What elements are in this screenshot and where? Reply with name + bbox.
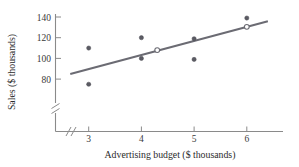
- trend-line: [70, 21, 268, 74]
- data-point: [139, 56, 143, 60]
- data-point-open: [244, 24, 249, 29]
- x-tick-label-6: 6: [244, 134, 249, 144]
- y-axis-title: Sales ($ thousands): [6, 34, 18, 110]
- data-point: [87, 46, 91, 50]
- y-axis-ticks: [56, 17, 62, 79]
- data-point: [192, 37, 196, 41]
- y-axis-break-icon: [52, 104, 60, 114]
- x-axis-ticks: [89, 127, 247, 132]
- data-point-open: [155, 48, 160, 53]
- x-tick-label-5: 5: [192, 134, 197, 144]
- data-point: [139, 36, 143, 40]
- data-points-group: [87, 16, 250, 86]
- y-tick-label-80: 80: [42, 75, 52, 85]
- data-point: [87, 82, 91, 86]
- x-tick-label-4: 4: [139, 134, 144, 144]
- y-tick-label-140: 140: [37, 13, 52, 23]
- scatter-plot-figure: Sales ($ thousands) 140 120 100 80: [0, 0, 299, 167]
- x-axis-title: Advertising budget ($ thousands): [105, 149, 236, 161]
- x-tick-label-3: 3: [86, 134, 91, 144]
- y-tick-label-120: 120: [37, 33, 52, 43]
- data-point: [245, 16, 249, 20]
- data-point: [192, 57, 196, 61]
- plot-canvas: Sales ($ thousands) 140 120 100 80: [0, 0, 299, 167]
- y-tick-label-100: 100: [37, 54, 52, 64]
